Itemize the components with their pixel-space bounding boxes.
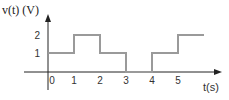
- x-tick-label: 1: [71, 75, 77, 86]
- x-tick-label: 0: [49, 75, 55, 86]
- x-tick-label: 5: [175, 75, 181, 86]
- y-axis-arrow-icon: [45, 14, 51, 22]
- x-tick-label: 3: [123, 75, 129, 86]
- signal-trace: [48, 35, 204, 72]
- x-tick-label: 2: [97, 75, 103, 86]
- step-waveform-chart: 2 1 0 1 2 3 4 5 v(t) (V) t(s): [0, 0, 229, 100]
- x-axis-arrow-icon: [214, 69, 222, 75]
- y-tick-label: 1: [34, 48, 40, 59]
- y-tick-label: 2: [34, 30, 40, 41]
- x-axis-label: t(s): [203, 81, 219, 93]
- x-tick-label: 4: [149, 75, 155, 86]
- y-axis-label: v(t) (V): [2, 3, 39, 17]
